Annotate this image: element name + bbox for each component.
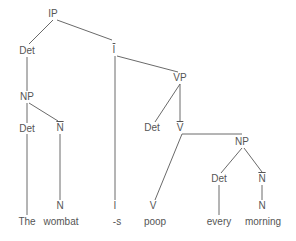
tree-node-np2: NP (235, 137, 249, 147)
tree-node-i: I (114, 201, 117, 211)
tree-branch (29, 103, 58, 121)
tree-branch (155, 84, 180, 122)
tree-branch (155, 134, 182, 200)
tree-node-det4: Det (211, 174, 227, 184)
tree-node-det2: Det (19, 124, 35, 134)
tree-branch (29, 20, 53, 44)
tree-word-w-s: -s (113, 217, 121, 227)
tree-node-det3: Det (144, 123, 160, 133)
tree-node-vp: VP (173, 73, 186, 83)
tree-word-w-poop: poop (144, 217, 166, 227)
tree-word-w-morning: morning (245, 217, 281, 227)
tree-node-nbar2: N (258, 174, 265, 184)
tree-branch (57, 20, 112, 40)
tree-node-vbar: V (177, 123, 184, 133)
syntax-tree-edges (0, 0, 296, 241)
tree-node-n2: N (258, 201, 265, 211)
tree-node-ibar: I (113, 45, 116, 55)
tree-word-w-the: The (18, 217, 35, 227)
tree-node-v: V (150, 201, 157, 211)
tree-branch (221, 148, 242, 173)
tree-node-ip: IP (48, 9, 57, 19)
tree-branch (117, 56, 178, 72)
tree-node-det1: Det (19, 46, 35, 56)
tree-word-w-every: every (207, 217, 231, 227)
tree-node-n1: N (56, 201, 63, 211)
tree-word-w-wombat: wombat (43, 217, 78, 227)
tree-node-np1: NP (20, 92, 34, 102)
tree-branch (244, 148, 262, 172)
tree-node-nbar1: N (56, 123, 63, 133)
